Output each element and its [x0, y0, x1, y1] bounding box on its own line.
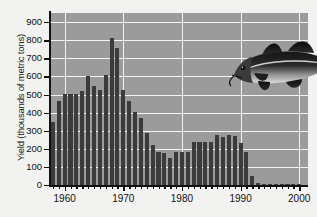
bar: [156, 152, 160, 186]
bar: [63, 94, 67, 185]
bar: [110, 38, 114, 185]
bar: [209, 142, 213, 186]
x-minor-tick-mark: [159, 186, 160, 189]
y-tick-mark: [44, 131, 49, 132]
x-minor-tick-mark: [135, 186, 136, 189]
bar: [239, 143, 243, 186]
x-tick-label: 1960: [45, 193, 85, 204]
atlantic-cod-photo: [224, 31, 317, 99]
bar: [115, 48, 119, 185]
y-tick-mark: [44, 95, 49, 96]
x-tick-mark: [241, 186, 242, 191]
y-tick-label: 800: [26, 34, 42, 45]
bar: [86, 76, 90, 185]
bar: [51, 122, 55, 185]
x-minor-tick-mark: [200, 186, 201, 189]
bar: [168, 158, 172, 185]
x-tick-label: 1970: [103, 193, 143, 204]
y-tick-mark: [44, 58, 49, 59]
bar: [121, 90, 125, 185]
y-tick-label: 100: [26, 161, 42, 172]
x-minor-tick-mark: [106, 186, 107, 189]
x-tick-label: 1990: [221, 193, 261, 204]
x-tick-label: 1980: [162, 193, 202, 204]
x-minor-tick-mark: [229, 186, 230, 189]
bar: [133, 112, 137, 185]
x-minor-tick-mark: [194, 186, 195, 189]
x-minor-tick-mark: [53, 186, 54, 189]
x-minor-tick-mark: [270, 186, 271, 189]
bar: [68, 94, 72, 185]
x-tick-mark: [299, 186, 300, 191]
x-tick-mark: [182, 186, 183, 191]
y-axis-label: Yield (thousands of metric tons): [15, 8, 26, 188]
bar: [197, 142, 201, 186]
bar: [244, 152, 248, 185]
x-minor-tick-mark: [129, 186, 130, 189]
bar: [192, 142, 196, 186]
bar: [80, 91, 84, 185]
x-tick-mark: [123, 186, 124, 191]
x-minor-tick-mark: [59, 186, 60, 189]
y-axis-line: [49, 11, 51, 187]
bar: [221, 137, 225, 185]
y-tick-mark: [44, 167, 49, 168]
x-minor-tick-mark: [100, 186, 101, 189]
x-tick-label: 2000: [279, 193, 317, 204]
x-minor-tick-mark: [282, 186, 283, 189]
y-tick-label: 300: [26, 125, 42, 136]
x-minor-tick-mark: [188, 186, 189, 189]
y-tick-label: 0: [37, 179, 42, 190]
bar: [151, 145, 155, 185]
x-minor-tick-mark: [293, 186, 294, 189]
x-minor-tick-mark: [170, 186, 171, 189]
x-minor-tick-mark: [264, 186, 265, 189]
bar: [233, 136, 237, 185]
x-tick-mark: [65, 186, 66, 191]
y-tick-label: 500: [26, 89, 42, 100]
bar: [127, 101, 131, 185]
bar: [174, 152, 178, 185]
y-tick-label: 200: [26, 143, 42, 154]
bar: [92, 86, 96, 185]
x-minor-tick-mark: [76, 186, 77, 189]
x-minor-tick-mark: [258, 186, 259, 189]
x-minor-tick-mark: [164, 186, 165, 189]
x-minor-tick-mark: [141, 186, 142, 189]
bar: [180, 152, 184, 185]
bar: [250, 176, 254, 185]
plot-area: [50, 13, 308, 185]
y-tick-label: 900: [26, 16, 42, 27]
x-minor-tick-mark: [217, 186, 218, 189]
x-minor-tick-mark: [112, 186, 113, 189]
bar: [145, 133, 149, 186]
x-minor-tick-mark: [252, 186, 253, 189]
y-tick-label: 400: [26, 107, 42, 118]
x-minor-tick-mark: [88, 186, 89, 189]
x-minor-tick-mark: [176, 186, 177, 189]
bar: [203, 142, 207, 186]
x-minor-tick-mark: [205, 186, 206, 189]
y-tick-mark: [44, 185, 49, 186]
bar: [215, 135, 219, 185]
y-tick-mark: [44, 149, 49, 150]
y-tick-label: 600: [26, 70, 42, 81]
x-minor-tick-mark: [276, 186, 277, 189]
x-minor-tick-mark: [288, 186, 289, 189]
x-minor-tick-mark: [94, 186, 95, 189]
x-minor-tick-mark: [211, 186, 212, 189]
y-tick-label: 700: [26, 52, 42, 63]
x-minor-tick-mark: [82, 186, 83, 189]
bar: [57, 101, 61, 185]
x-minor-tick-mark: [246, 186, 247, 189]
x-minor-tick-mark: [153, 186, 154, 189]
x-minor-tick-mark: [235, 186, 236, 189]
x-minor-tick-mark: [147, 186, 148, 189]
bar: [104, 75, 108, 185]
bar: [74, 94, 78, 185]
bar: [162, 153, 166, 185]
y-tick-mark: [44, 76, 49, 77]
bar: [139, 118, 143, 185]
y-tick-mark: [44, 113, 49, 114]
y-tick-mark: [44, 22, 49, 23]
